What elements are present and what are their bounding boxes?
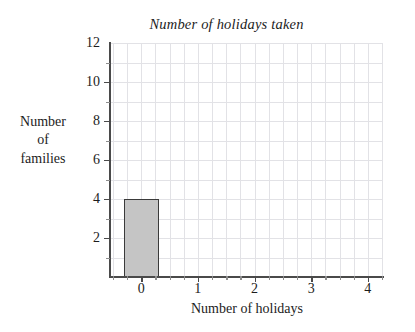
x-axis-tick-minor <box>269 276 270 280</box>
gridline-vertical <box>325 43 326 277</box>
x-axis-tick-label: 1 <box>183 282 213 296</box>
gridline-horizontal <box>110 63 382 64</box>
bar <box>124 199 159 277</box>
gridline-vertical <box>283 43 284 277</box>
y-axis-title: Number of families <box>4 113 82 168</box>
x-axis-title: Number of holidays <box>110 301 384 317</box>
gridline-vertical <box>297 43 298 277</box>
gridline-vertical <box>212 43 213 277</box>
y-axis-title-line-2: of <box>4 131 82 149</box>
plot-area <box>110 43 382 277</box>
gridline-vertical <box>226 43 227 277</box>
x-axis-line <box>110 276 384 278</box>
x-axis-tick-label: 3 <box>296 282 326 296</box>
y-axis-title-line-1: Number <box>4 113 82 131</box>
gridline-vertical <box>311 43 312 277</box>
gridline-horizontal <box>110 141 382 142</box>
y-axis-tick-minor <box>106 258 110 259</box>
gridline-vertical <box>368 43 369 277</box>
y-axis-tick-label: 10 <box>74 75 100 89</box>
x-axis-tick-minor <box>240 276 241 280</box>
x-axis-tick-minor <box>382 276 383 280</box>
y-axis-tick-minor <box>106 219 110 220</box>
x-axis-tick-minor <box>113 276 114 280</box>
y-axis-tick-label: 6 <box>74 153 100 167</box>
x-axis-tick-label: 2 <box>240 282 270 296</box>
y-axis-tick-label: 4 <box>74 192 100 206</box>
x-axis-tick-label: 4 <box>353 282 383 296</box>
gridline-vertical <box>240 43 241 277</box>
x-axis-tick-label: 0 <box>126 282 156 296</box>
y-axis-tick-major <box>104 82 110 83</box>
gridline-horizontal <box>110 121 382 122</box>
y-axis-tick-label: 12 <box>74 36 100 50</box>
y-axis-title-line-3: families <box>4 150 82 168</box>
x-axis-tick-minor <box>283 276 284 280</box>
x-axis-tick-minor <box>226 276 227 280</box>
gridline-vertical <box>340 43 341 277</box>
y-axis-tick-major <box>104 121 110 122</box>
y-axis-tick-major <box>104 238 110 239</box>
y-axis-tick-major <box>104 199 110 200</box>
chart-figure: Number of holidays taken Number of famil… <box>0 0 415 332</box>
x-axis-tick-minor <box>354 276 355 280</box>
y-axis-tick-minor <box>106 141 110 142</box>
x-axis-tick-minor <box>184 276 185 280</box>
x-axis-tick-minor <box>340 276 341 280</box>
y-axis-tick-minor <box>106 102 110 103</box>
gridline-horizontal <box>110 43 382 44</box>
gridline-vertical <box>113 43 114 277</box>
y-axis-tick-major <box>104 160 110 161</box>
gridline-horizontal <box>110 102 382 103</box>
gridline-horizontal <box>110 180 382 181</box>
gridline-vertical <box>354 43 355 277</box>
x-axis-tick-minor <box>155 276 156 280</box>
gridline-vertical <box>198 43 199 277</box>
x-axis-tick-minor <box>212 276 213 280</box>
gridline-vertical <box>269 43 270 277</box>
y-axis-tick-minor <box>106 180 110 181</box>
gridline-vertical <box>170 43 171 277</box>
x-axis-tick-minor <box>297 276 298 280</box>
gridline-vertical <box>382 43 383 277</box>
gridline-vertical <box>184 43 185 277</box>
y-axis-tick-label: 8 <box>74 114 100 128</box>
y-axis-tick-minor <box>106 63 110 64</box>
gridline-horizontal <box>110 160 382 161</box>
gridline-horizontal <box>110 82 382 83</box>
chart-title: Number of holidays taken <box>0 16 415 33</box>
gridline-vertical <box>255 43 256 277</box>
x-axis-tick-minor <box>127 276 128 280</box>
x-axis-tick-minor <box>325 276 326 280</box>
y-axis-tick-label: 2 <box>74 231 100 245</box>
x-axis-tick-minor <box>170 276 171 280</box>
